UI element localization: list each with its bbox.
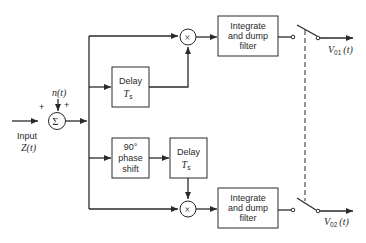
sampling-switch-bottom: V02(t) (297, 198, 353, 228)
input-signal: + Input Z(t) (12, 102, 44, 154)
phase-shift-block: 90° phase shift (112, 138, 149, 178)
times-symbol-bottom: × (185, 204, 191, 215)
filter-bottom-line2: and dump (228, 203, 268, 213)
phase-line3: shift (122, 164, 139, 174)
filter-bottom-line1: Integrate (230, 193, 266, 203)
phase-line2: phase (118, 153, 143, 163)
filter-top-line1: Integrate (230, 21, 266, 31)
input-label: Input (17, 131, 38, 141)
output-v01: V01(t) (328, 44, 353, 56)
multiplier-top: × (180, 29, 196, 45)
integrate-dump-filter-top: Integrate and dump filter (218, 16, 278, 56)
filter-bottom-line3: filter (239, 213, 256, 223)
input-signal-label: Z(t) (21, 142, 37, 154)
delay-top-label: Delay (119, 76, 143, 86)
summer-node: Σ (49, 113, 66, 130)
delay-bottom-label: Delay (177, 147, 201, 157)
noise-signal: n(t) + (52, 87, 69, 111)
times-symbol-top: × (185, 32, 191, 43)
plus-sign-noise: + (64, 100, 69, 110)
filter-top-line2: and dump (228, 31, 268, 41)
filter-top-line3: filter (239, 41, 256, 51)
delay-block-top: Delay Ts (112, 67, 149, 107)
multiplier-bottom: × (180, 201, 196, 217)
delay-block-bottom: Delay Ts (170, 138, 207, 178)
differential-detector-diagram: + Input Z(t) n(t) + Σ Delay Ts × Integra… (0, 0, 366, 243)
sigma-symbol: Σ (53, 116, 59, 127)
noise-label: n(t) (52, 87, 67, 99)
integrate-dump-filter-bottom: Integrate and dump filter (218, 188, 278, 228)
phase-line1: 90° (124, 142, 138, 152)
output-v02: V02(t) (324, 216, 349, 228)
plus-sign-input: + (39, 102, 44, 112)
